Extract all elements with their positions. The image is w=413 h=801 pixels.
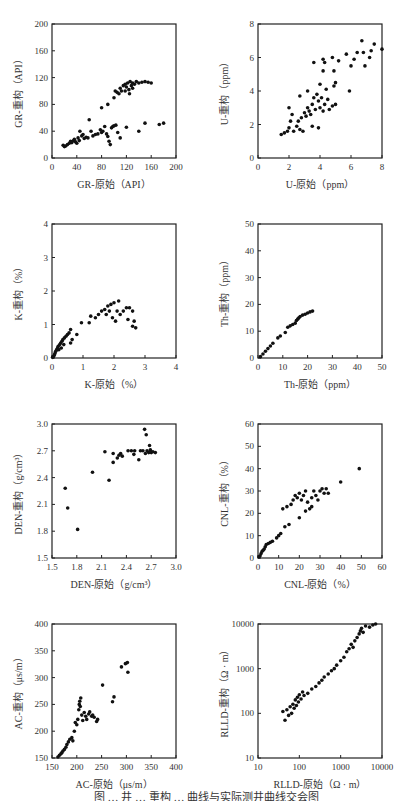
y-axis-label: U-重构（ppm） xyxy=(218,57,230,125)
x-tick-label: 0 xyxy=(256,562,261,572)
y-tick-label: 6 xyxy=(250,53,255,63)
x-tick-label: 40 xyxy=(353,362,363,372)
x-tick-label: 300 xyxy=(120,762,134,772)
y-tick-label: 10 xyxy=(245,753,255,763)
th-chart-svg: 0102030405001020304050Th-原始（ppm）Th-重构（pp… xyxy=(206,200,413,400)
x-tick-label: 200 xyxy=(70,762,84,772)
y-tick-label: 2 xyxy=(250,120,255,130)
y-tick-label: 250 xyxy=(35,699,49,709)
y-tick-label: 2.1 xyxy=(37,499,48,509)
x-tick-label: 10 xyxy=(274,562,284,572)
data-points xyxy=(56,661,130,759)
y-tick-label: 150 xyxy=(35,753,49,763)
y-tick-label: 1 xyxy=(44,320,49,330)
scatter-panel-k: 0123401234K-原始（%）K-重构（%） xyxy=(0,200,206,400)
y-axis-label: CNL-重构（%） xyxy=(218,455,230,527)
y-tick-label: 400 xyxy=(35,619,49,629)
y-axis-label: AC-重构（μs/m） xyxy=(12,652,24,729)
x-tick-label: 2.4 xyxy=(121,562,133,572)
y-tick-label: 80 xyxy=(39,99,49,109)
x-tick-label: 20 xyxy=(295,562,305,572)
y-axis-label: RLLD-重构（Ω · m） xyxy=(218,645,230,738)
x-tick-label: 50 xyxy=(378,362,388,372)
x-tick-label: 40 xyxy=(336,562,346,572)
y-tick-label: 3.0 xyxy=(37,419,49,429)
x-tick-label: 10000 xyxy=(371,762,394,772)
data-points xyxy=(51,299,138,359)
data-points xyxy=(259,309,315,358)
y-tick-label: 200 xyxy=(35,19,49,29)
x-tick-label: 10 xyxy=(278,362,288,372)
cnl-chart-svg: 01020304050600102030405060CNL-原始（%）CNL-重… xyxy=(206,400,413,600)
x-axis-label: U-原始（ppm） xyxy=(286,178,354,190)
scatter-panel-den: 1.51.82.12.42.73.01.51.82.12.42.73.0DEN-… xyxy=(0,400,206,600)
x-tick-label: 40 xyxy=(72,162,82,172)
scatter-panel-rlld: 1010010001000010100100010000RLLD-原始（Ω · … xyxy=(206,600,413,790)
x-tick-label: 1000 xyxy=(332,762,351,772)
data-points xyxy=(257,467,361,559)
x-axis-label: RLLD-原始（Ω · m） xyxy=(274,778,367,790)
y-axis-label: K-重构（%） xyxy=(12,262,24,321)
x-tick-label: 60 xyxy=(378,562,388,572)
x-axis-label: CNL-原始（%） xyxy=(284,578,356,590)
y-tick-label: 20 xyxy=(245,508,255,518)
y-axis-label: DEN-重构（g/cm³） xyxy=(12,448,24,535)
x-tick-label: 120 xyxy=(120,162,134,172)
x-tick-label: 20 xyxy=(303,362,313,372)
x-tick-label: 1 xyxy=(81,362,86,372)
x-tick-label: 350 xyxy=(144,762,158,772)
x-tick-label: 2.1 xyxy=(96,562,107,572)
figure-caption: 图 … 井 … 重构 … 曲线与实际测井曲线交会图 xyxy=(0,790,413,801)
y-tick-label: 30 xyxy=(245,486,255,496)
x-tick-label: 3.0 xyxy=(170,562,182,572)
x-tick-label: 0 xyxy=(50,362,55,372)
y-tick-label: 20 xyxy=(245,299,255,309)
x-tick-label: 2 xyxy=(287,162,292,172)
scatter-panel-th: 0102030405001020304050Th-原始（ppm）Th-重构（pp… xyxy=(206,200,413,400)
x-tick-label: 50 xyxy=(357,562,367,572)
x-tick-label: 2 xyxy=(112,362,117,372)
y-tick-label: 2.4 xyxy=(37,473,49,483)
y-tick-label: 100 xyxy=(241,708,255,718)
gr-chart-svg: 0408012016020004080120160200GR-原始（API）GR… xyxy=(0,0,206,200)
x-tick-label: 150 xyxy=(45,762,59,772)
x-tick-label: 30 xyxy=(328,362,338,372)
plot-frame xyxy=(52,424,176,558)
y-tick-label: 60 xyxy=(245,419,255,429)
plot-frame xyxy=(258,624,382,758)
x-tick-label: 1.8 xyxy=(71,562,83,572)
y-tick-label: 10 xyxy=(245,531,255,541)
x-tick-label: 30 xyxy=(316,562,326,572)
k-chart-svg: 0123401234K-原始（%）K-重构（%） xyxy=(0,200,206,400)
y-tick-label: 300 xyxy=(35,673,49,683)
y-tick-label: 10000 xyxy=(232,619,255,629)
x-tick-label: 100 xyxy=(293,762,307,772)
y-tick-label: 40 xyxy=(39,126,49,136)
data-points xyxy=(63,428,157,532)
y-tick-label: 2.7 xyxy=(37,446,49,456)
x-axis-label: GR-原始（API） xyxy=(77,178,150,190)
scatter-panel-ac: 150200250300350400150200250300350400AC-原… xyxy=(0,600,206,790)
y-tick-label: 2 xyxy=(44,286,49,296)
scatter-panel-u: 0246802468U-原始（ppm）U-重构（ppm） xyxy=(206,0,413,200)
x-tick-label: 80 xyxy=(97,162,107,172)
u-chart-svg: 0246802468U-原始（ppm）U-重构（ppm） xyxy=(206,0,413,200)
y-tick-label: 1.8 xyxy=(37,526,49,536)
x-tick-label: 0 xyxy=(50,162,55,172)
x-tick-label: 4 xyxy=(318,162,323,172)
x-tick-label: 2.7 xyxy=(146,562,158,572)
data-points xyxy=(281,622,377,722)
scatter-panel-cnl: 01020304050600102030405060CNL-原始（%）CNL-重… xyxy=(206,400,413,600)
y-axis-label: Th-重构（ppm） xyxy=(218,255,230,327)
y-tick-label: 160 xyxy=(35,46,49,56)
y-tick-label: 8 xyxy=(250,19,255,29)
y-tick-label: 4 xyxy=(250,86,255,96)
y-tick-label: 50 xyxy=(245,441,255,451)
plot-frame xyxy=(52,224,176,358)
y-tick-label: 0 xyxy=(250,153,255,163)
x-tick-label: 0 xyxy=(256,162,261,172)
y-tick-label: 200 xyxy=(35,726,49,736)
den-chart-svg: 1.51.82.12.42.73.01.51.82.12.42.73.0DEN-… xyxy=(0,400,206,600)
y-tick-label: 1000 xyxy=(236,664,255,674)
x-axis-label: K-原始（%） xyxy=(85,378,144,390)
